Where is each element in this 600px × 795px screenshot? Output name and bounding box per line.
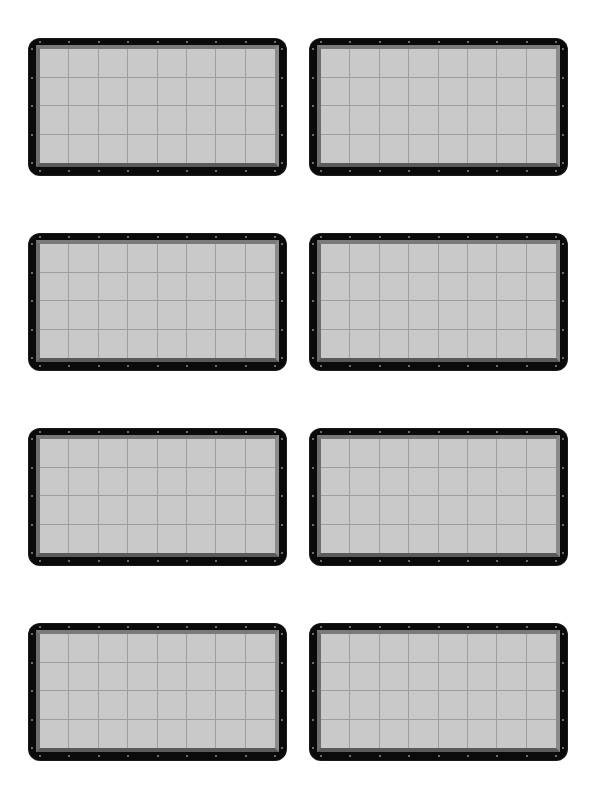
screw-icon: [98, 626, 100, 628]
grid-cell: [409, 244, 438, 273]
screw-icon: [186, 626, 188, 628]
grid-cell: [321, 634, 350, 663]
grid-cell: [187, 720, 216, 749]
grid-cell: [158, 106, 187, 135]
screw-icon: [281, 77, 283, 79]
grid-cell: [40, 496, 69, 525]
screw-icon: [157, 755, 159, 757]
screw-icon: [281, 495, 283, 497]
screw-icon: [68, 170, 70, 172]
grid-cell: [350, 273, 379, 302]
grid-cell: [380, 49, 409, 78]
screw-icon: [438, 755, 440, 757]
grid-cell: [350, 106, 379, 135]
grid-cell: [439, 78, 468, 107]
screw-icon: [526, 41, 528, 43]
panel-bevel: [36, 45, 279, 167]
grid-cell: [321, 439, 350, 468]
screw-icon: [274, 755, 276, 757]
screw-icon: [281, 467, 283, 469]
screw-icon: [215, 626, 217, 628]
grid-cell: [99, 525, 128, 554]
grid-cell: [69, 496, 98, 525]
grid-cell: [40, 330, 69, 359]
grid-cell: [439, 439, 468, 468]
grid-cell: [497, 244, 526, 273]
screw-icon: [562, 357, 564, 359]
grid-cell: [409, 439, 438, 468]
grid-cell: [40, 106, 69, 135]
screw-icon: [281, 162, 283, 164]
screw-icon: [31, 243, 33, 245]
screw-icon: [349, 560, 351, 562]
grid-cell: [216, 439, 245, 468]
grid-cell: [40, 525, 69, 554]
screw-icon: [562, 467, 564, 469]
screw-icon: [127, 431, 129, 433]
screw-icon: [312, 48, 314, 50]
grid-cell: [246, 244, 275, 273]
panel-grid: [321, 634, 556, 748]
screw-icon: [526, 431, 528, 433]
grid-cell: [321, 720, 350, 749]
screw-icon: [555, 236, 557, 238]
screw-icon: [349, 626, 351, 628]
grid-cell: [128, 135, 157, 164]
grid-cell: [468, 330, 497, 359]
grid-cell: [439, 720, 468, 749]
screw-icon: [562, 329, 564, 331]
screw-icon: [274, 431, 276, 433]
grid-cell: [350, 468, 379, 497]
screw-icon: [31, 552, 33, 554]
screw-icon: [467, 560, 469, 562]
screw-icon: [157, 365, 159, 367]
grid-cell: [527, 78, 556, 107]
grid-cell: [187, 439, 216, 468]
screw-icon: [438, 365, 440, 367]
screw-icon: [39, 626, 41, 628]
grid-cell: [187, 330, 216, 359]
screw-icon: [31, 438, 33, 440]
screw-icon: [379, 236, 381, 238]
screw-icon: [215, 431, 217, 433]
grid-cell: [497, 273, 526, 302]
screw-icon: [31, 747, 33, 749]
screw-icon: [562, 105, 564, 107]
screw-icon: [467, 365, 469, 367]
screw-icon: [496, 560, 498, 562]
grid-cell: [128, 663, 157, 692]
screw-icon: [379, 365, 381, 367]
grid-cell: [246, 106, 275, 135]
screw-icon: [562, 747, 564, 749]
grid-cell: [246, 135, 275, 164]
grid-cell: [321, 135, 350, 164]
grid-cell: [158, 663, 187, 692]
grid-cell: [527, 330, 556, 359]
screw-icon: [281, 524, 283, 526]
grid-cell: [99, 439, 128, 468]
screw-icon: [562, 48, 564, 50]
grid-cell: [468, 468, 497, 497]
grid-cell: [497, 720, 526, 749]
screw-icon: [281, 48, 283, 50]
grid-cell: [246, 691, 275, 720]
screw-icon: [496, 626, 498, 628]
grid-cell: [439, 49, 468, 78]
screw-icon: [39, 755, 41, 757]
screw-icon: [408, 431, 410, 433]
panel-grid: [321, 49, 556, 163]
grid-cell: [158, 49, 187, 78]
grid-cell: [128, 301, 157, 330]
grid-cell: [380, 244, 409, 273]
panel-bevel: [36, 435, 279, 557]
grid-cell: [128, 525, 157, 554]
grid-cell: [187, 496, 216, 525]
grid-cell: [321, 330, 350, 359]
screw-icon: [186, 170, 188, 172]
screw-icon: [274, 236, 276, 238]
grid-cell: [380, 78, 409, 107]
grid-cell: [99, 634, 128, 663]
grid-cell: [468, 720, 497, 749]
screw-icon: [157, 41, 159, 43]
grid-cell: [158, 525, 187, 554]
